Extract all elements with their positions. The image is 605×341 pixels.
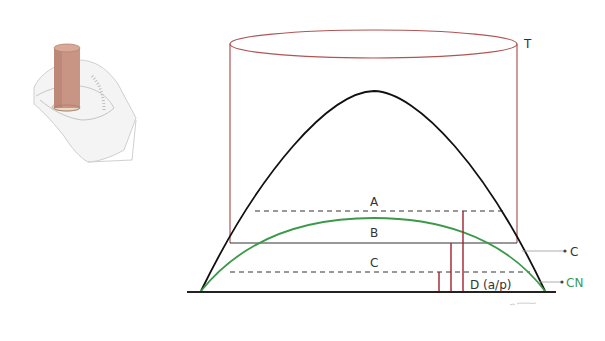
cylinder-eye-illustration (34, 44, 136, 162)
label-zone-b: B (370, 226, 378, 240)
arrow-c (522, 249, 567, 252)
red-vertical-lines (439, 211, 463, 292)
label-zone-d: D (a/p) (470, 278, 511, 292)
label-capacity-c: C (570, 245, 578, 259)
signature-mark (510, 303, 536, 305)
label-tank-t: T (523, 37, 532, 51)
label-critical-cn: CN (566, 276, 583, 290)
label-zone-a: A (370, 195, 379, 209)
label-zone-c: C (370, 256, 378, 270)
diagram-canvas: T A B C D (a/p) C CN (0, 0, 605, 341)
